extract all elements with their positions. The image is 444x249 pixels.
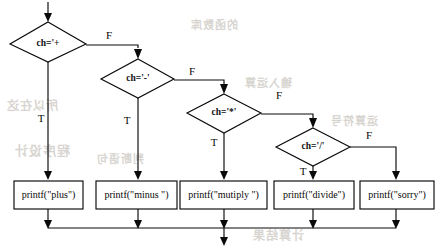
branch-label-d3-true: T bbox=[211, 136, 218, 148]
branch-label-d1-false: F bbox=[106, 29, 112, 41]
process-node-plus[interactable]: printf("plus") bbox=[14, 181, 83, 209]
branch-label-d2-true: T bbox=[124, 114, 131, 126]
decision-label-multiply: ch='*' bbox=[212, 107, 237, 117]
decision-node-multiply[interactable]: ch='*' bbox=[187, 94, 261, 133]
process-label-minus: printf("minus ") bbox=[105, 189, 169, 201]
process-node-divide[interactable]: printf("divide") bbox=[274, 181, 354, 209]
arrowhead-d2-true bbox=[134, 171, 142, 180]
branch-label-d4-false: F bbox=[366, 129, 372, 141]
decision-label-plus: ch='+ bbox=[37, 38, 60, 48]
decision-label-minus: ch='-' bbox=[126, 73, 149, 83]
exit-arrowhead bbox=[220, 237, 228, 246]
entry-arrowhead bbox=[44, 13, 52, 22]
connector-d2-false bbox=[174, 80, 224, 84]
connector-d1-false bbox=[86, 45, 138, 48]
arrowhead-d1-true bbox=[44, 171, 52, 180]
branch-label-d4-true: T bbox=[300, 165, 307, 177]
decision-node-divide[interactable]: ch='/' bbox=[276, 128, 350, 166]
process-label-divide: printf("divide") bbox=[283, 189, 345, 201]
process-node-multiply[interactable]: printf("mutiply ") bbox=[180, 181, 267, 209]
flowchart-svg: ch='+ ch='-' ch='*' ch='/' F T F T F T F… bbox=[0, 0, 444, 249]
connector-d3-false bbox=[261, 114, 313, 118]
process-label-plus: printf("plus") bbox=[22, 189, 76, 201]
arrowhead-d2-false bbox=[220, 84, 228, 94]
decision-node-plus[interactable]: ch='+ bbox=[10, 22, 86, 62]
arrowhead-d4-false bbox=[392, 171, 400, 180]
branch-label-d1-true: T bbox=[38, 112, 45, 124]
process-node-minus[interactable]: printf("minus ") bbox=[96, 181, 177, 209]
connector-d4-false bbox=[350, 147, 396, 172]
branch-label-d2-false: F bbox=[189, 65, 195, 77]
flowchart-canvas: 所以在这 程序设计 的函数库 输入运算 计算结果 判断语句 运算符号 bbox=[0, 0, 444, 249]
arrowhead-d3-false bbox=[309, 118, 317, 128]
decision-node-minus[interactable]: ch='-' bbox=[101, 59, 174, 98]
branch-label-d3-false: F bbox=[276, 89, 282, 101]
process-label-sorry: printf("sorry") bbox=[368, 189, 426, 201]
process-label-multiply: printf("mutiply ") bbox=[188, 189, 259, 201]
arrowhead-d4-true bbox=[309, 171, 317, 180]
decision-label-divide: ch='/' bbox=[302, 141, 325, 151]
process-node-sorry[interactable]: printf("sorry") bbox=[360, 181, 434, 209]
arrowhead-d3-true bbox=[220, 171, 228, 180]
arrowhead-d1-false bbox=[134, 49, 142, 59]
